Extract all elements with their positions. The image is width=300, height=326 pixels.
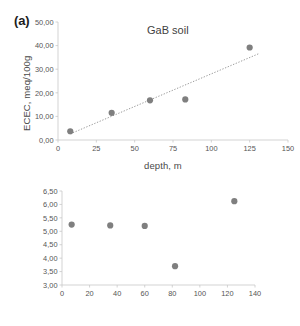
y-tick-label: 20,00 <box>35 89 54 98</box>
y-tick-label: 4,50 <box>43 240 57 249</box>
x-tick-label: 20 <box>85 289 93 298</box>
data-point-marker <box>182 96 188 102</box>
y-tick-label: 40,00 <box>35 41 54 50</box>
data-point-marker <box>172 263 178 269</box>
panel-a-plot-area: 0,0010,0020,0030,0040,0050,0002550751001… <box>0 0 300 170</box>
x-tick-label: 140 <box>249 289 261 298</box>
trendline <box>70 54 259 134</box>
panel-b-ph-chart: (b) pH depth, m GaB soil 3,003,504,004,5… <box>0 170 300 326</box>
x-tick-label: 100 <box>194 289 206 298</box>
y-tick-label: 4,00 <box>43 254 57 263</box>
x-tick-label: 25 <box>92 144 100 153</box>
y-tick-label: 6,00 <box>43 200 57 209</box>
data-point-marker <box>107 222 113 228</box>
x-tick-label: 60 <box>141 289 149 298</box>
data-point-marker <box>69 221 75 227</box>
y-tick-label: 30,00 <box>35 65 54 74</box>
y-tick-label: 0,00 <box>39 136 53 145</box>
panel-a-ecec-chart: (a) ECEC, meq/100g depth, m GaB soil 0,0… <box>0 0 300 170</box>
y-tick-label: 5,50 <box>43 214 57 223</box>
y-tick-label: 6,50 <box>43 187 57 196</box>
x-tick-label: 100 <box>205 144 217 153</box>
x-tick-label: 50 <box>131 144 139 153</box>
panel-b-plot-area: 3,003,504,004,505,005,506,006,5002040608… <box>0 170 300 326</box>
y-tick-label: 3,50 <box>43 267 57 276</box>
y-tick-label: 50,00 <box>35 18 54 27</box>
data-point-marker <box>247 44 253 50</box>
data-point-marker <box>147 97 153 103</box>
x-tick-label: 80 <box>168 289 176 298</box>
x-tick-label: 75 <box>169 144 177 153</box>
data-point-marker <box>109 110 115 116</box>
x-tick-label: 0 <box>56 144 60 153</box>
data-point-marker <box>142 223 148 229</box>
x-tick-label: 40 <box>113 289 121 298</box>
x-tick-label: 150 <box>282 144 294 153</box>
y-tick-label: 10,00 <box>35 112 54 121</box>
x-tick-label: 120 <box>221 289 233 298</box>
y-tick-label: 3,00 <box>43 281 57 290</box>
x-tick-label: 125 <box>243 144 255 153</box>
data-point-marker <box>67 128 73 134</box>
data-point-marker <box>231 198 237 204</box>
x-tick-label: 0 <box>60 289 64 298</box>
y-tick-label: 5,00 <box>43 227 57 236</box>
